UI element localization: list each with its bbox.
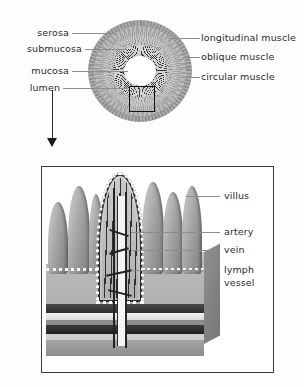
leader-oblique-muscle xyxy=(183,57,200,58)
artery-vessel xyxy=(113,188,115,348)
leader-circular-muscle xyxy=(186,77,200,78)
crypt-epithelium xyxy=(46,268,98,271)
slab-side-face xyxy=(204,243,220,344)
label-submucosa: submucosa xyxy=(0,43,82,54)
leader-artery xyxy=(131,232,220,233)
leader-vein xyxy=(131,250,220,251)
label-serosa: serosa xyxy=(0,27,69,38)
callout-arrow-icon xyxy=(47,138,57,147)
label-villus: villus xyxy=(224,190,249,201)
label-oblique-muscle: oblique muscle xyxy=(201,51,274,62)
leader-lumen xyxy=(63,88,128,89)
villus-shape xyxy=(68,186,90,274)
label-circular-muscle: circular muscle xyxy=(201,71,275,82)
leader-lymph-vessel xyxy=(131,270,220,271)
magnification-callout-box xyxy=(129,86,155,112)
leader-villus xyxy=(186,196,220,197)
lumen-space xyxy=(124,56,156,86)
label-mucosa: mucosa xyxy=(0,65,69,76)
villus-shape xyxy=(48,202,68,274)
label-longitudinal-muscle: longitudinal muscle xyxy=(201,32,296,43)
leader-serosa xyxy=(72,33,116,34)
label-vein: vein xyxy=(224,244,245,255)
label-lymph: lymph xyxy=(224,264,254,275)
callout-stem xyxy=(52,90,53,140)
figure-canvas: serosa submucosa mucosa lumen longitudin… xyxy=(0,0,304,387)
label-vessel: vessel xyxy=(224,277,254,288)
leader-submucosa xyxy=(85,49,127,50)
label-artery: artery xyxy=(224,226,253,237)
villus-shape xyxy=(142,182,164,274)
leader-longitudinal-muscle xyxy=(168,38,200,39)
leader-mucosa xyxy=(72,71,128,72)
label-lumen: lumen xyxy=(0,82,60,93)
villus-shape xyxy=(163,192,183,274)
villus-shape xyxy=(182,186,202,274)
